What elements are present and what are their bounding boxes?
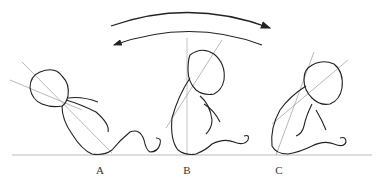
- label-b: B: [183, 164, 190, 176]
- baby-figure-b: [166, 38, 249, 155]
- diagram-drawing: [0, 0, 384, 181]
- posture-diagram: A B C: [0, 0, 384, 181]
- label-c: C: [275, 164, 282, 176]
- baby-figure-a: [10, 62, 161, 155]
- baby-figure-c: [272, 52, 348, 155]
- label-a: A: [96, 164, 104, 176]
- arrow-right-icon: [111, 12, 270, 28]
- arrow-left-icon: [114, 32, 262, 46]
